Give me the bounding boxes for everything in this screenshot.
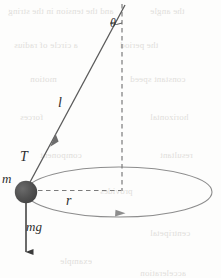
string-line	[29, 5, 125, 184]
weight-label: mg	[26, 220, 42, 233]
conical-pendulum-figure: and the tension in the stringthe anglea …	[0, 0, 221, 278]
radius-label: r	[66, 194, 71, 208]
orbit-ellipse	[26, 167, 212, 217]
angle-label: θ	[110, 17, 116, 29]
tension-label: T	[20, 150, 28, 164]
string-length-label: l	[58, 96, 62, 110]
pendulum-drawing	[0, 0, 221, 278]
pendulum-bob	[15, 181, 37, 203]
mass-label: m	[2, 172, 11, 185]
orbit-direction-arrowhead	[115, 210, 126, 217]
